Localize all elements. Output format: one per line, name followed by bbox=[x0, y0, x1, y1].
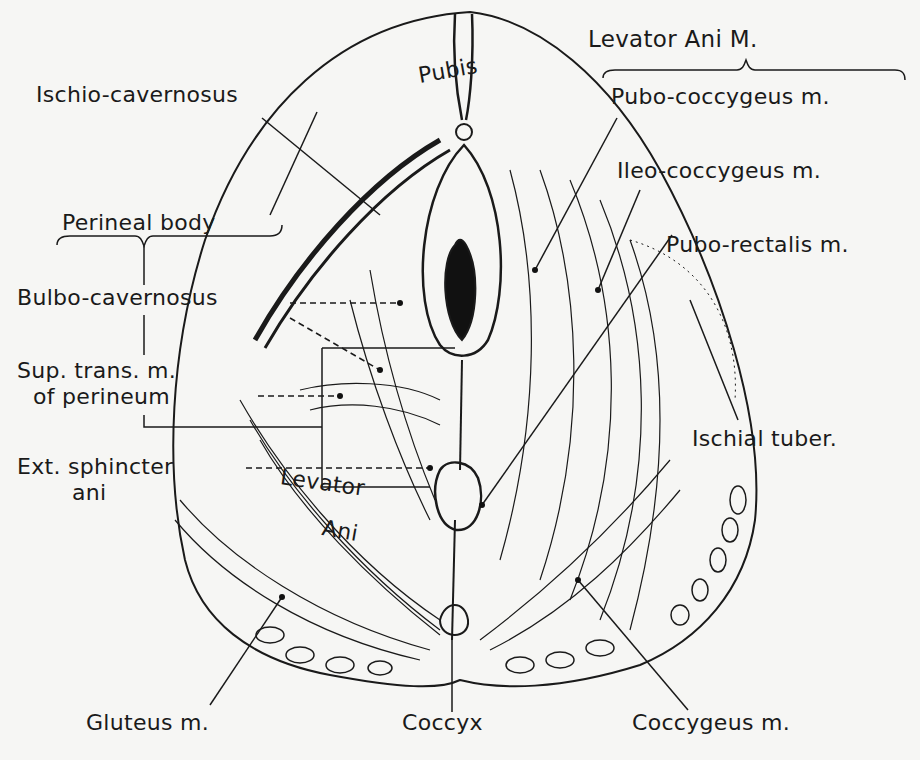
label-perineal-body: Perineal body bbox=[62, 212, 216, 234]
label-levator-inner-line2: Ani bbox=[320, 517, 359, 545]
label-gluteus: Gluteus m. bbox=[86, 712, 209, 734]
anatomy-figure: Pubis Ischio-cavernosus Perineal body Bu… bbox=[0, 0, 920, 760]
label-bulbo-cavernosus: Bulbo-cavernosus bbox=[17, 287, 218, 309]
label-pubo-rectalis: Pubo-rectalis m. bbox=[666, 234, 849, 256]
label-levator-ani-group: Levator Ani M. bbox=[588, 28, 758, 51]
pelvic-outline bbox=[173, 12, 756, 686]
label-pubo-coccygeus: Pubo-coccygeus m. bbox=[611, 86, 830, 108]
label-ext-sphincter-line2: ani bbox=[72, 482, 106, 504]
label-ext-sphincter-line1: Ext. sphincter bbox=[17, 456, 173, 478]
label-coccyx: Coccyx bbox=[402, 712, 483, 734]
label-sup-trans-line2: of perineum bbox=[33, 386, 170, 408]
label-coccygeus: Coccygeus m. bbox=[632, 712, 790, 734]
anal-opening bbox=[435, 462, 481, 530]
label-ileo-coccygeus: Ileo-coccygeus m. bbox=[617, 160, 821, 182]
label-sup-trans-line1: Sup. trans. m. bbox=[17, 360, 176, 382]
label-ischio-cavernosus: Ischio-cavernosus bbox=[36, 84, 238, 106]
label-ischial-tuber: Ischial tuber. bbox=[692, 428, 837, 450]
